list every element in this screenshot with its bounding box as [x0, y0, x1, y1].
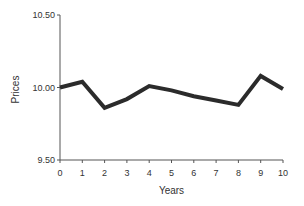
chart-canvas: 9.5010.0010.50012345678910YearsPrices — [0, 0, 304, 206]
line-chart: 9.5010.0010.50012345678910YearsPrices — [0, 0, 304, 206]
x-tick-label: 0 — [57, 168, 62, 178]
x-tick-label: 2 — [102, 168, 107, 178]
x-tick-label: 5 — [169, 168, 174, 178]
y-tick-label: 9.50 — [37, 155, 55, 165]
y-axis-title: Prices — [10, 76, 21, 104]
y-tick-label: 10.50 — [32, 10, 55, 20]
x-tick-label: 8 — [236, 168, 241, 178]
x-tick-label: 7 — [214, 168, 219, 178]
x-tick-label: 1 — [80, 168, 85, 178]
x-tick-label: 9 — [258, 168, 263, 178]
x-axis-title: Years — [159, 185, 184, 196]
x-tick-label: 10 — [278, 168, 288, 178]
y-tick-label: 10.00 — [32, 83, 55, 93]
x-tick-label: 3 — [124, 168, 129, 178]
price-line — [60, 76, 283, 108]
x-tick-label: 4 — [147, 168, 152, 178]
x-tick-label: 6 — [191, 168, 196, 178]
